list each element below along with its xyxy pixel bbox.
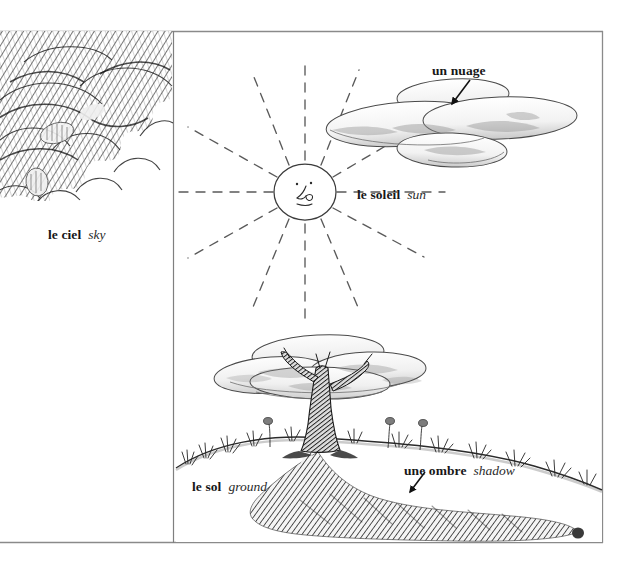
sky-cloud-mass [0, 31, 180, 206]
label-le-sol: le solground [192, 478, 267, 494]
illustration-page: le cielsky le soleilsun un nuage le solg… [0, 0, 637, 572]
cloud-upper [325, 76, 578, 169]
label-un-nuage: un nuage [432, 62, 486, 78]
label-le-ciel-en: sky [88, 227, 105, 242]
label-le-soleil: le soleilsun [357, 186, 426, 202]
label-le-sol-fr: le sol [192, 479, 221, 494]
illustration-canvas [0, 0, 637, 572]
label-le-ciel-fr: le ciel [48, 227, 81, 242]
sun-disc [274, 164, 336, 220]
shadow-tip-stone [572, 528, 584, 539]
label-une-ombre: une ombreshadow [404, 462, 515, 478]
label-une-ombre-en: shadow [474, 463, 515, 478]
label-le-sol-en: ground [228, 479, 267, 494]
tree [213, 332, 427, 459]
label-le-soleil-fr: le soleil [357, 187, 400, 202]
label-le-ciel: le cielsky [48, 226, 106, 242]
label-une-ombre-fr: une ombre [404, 463, 467, 478]
label-un-nuage-fr: un nuage [432, 63, 486, 78]
label-le-soleil-en: sun [407, 187, 426, 202]
